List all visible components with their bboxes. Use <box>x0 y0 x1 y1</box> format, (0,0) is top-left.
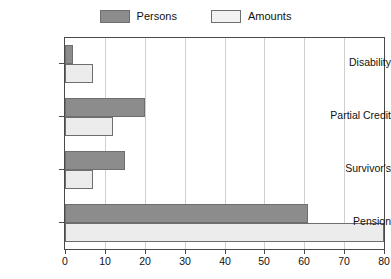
x-axis-label-60: 60 <box>298 256 310 267</box>
bar-persons-partial-credit[interactable] <box>65 98 145 117</box>
bar-chart: Persons Amounts DisabilityPartial Credit… <box>0 0 391 279</box>
x-axis-label-10: 10 <box>99 256 111 267</box>
chart-legend: Persons Amounts <box>0 10 391 23</box>
x-axis-label-30: 30 <box>179 256 191 267</box>
legend-label-amounts: Amounts <box>248 11 291 22</box>
legend-item-amounts[interactable]: Amounts <box>211 10 291 23</box>
x-axis-tick <box>225 250 226 254</box>
bar-persons-pension[interactable] <box>65 204 308 223</box>
x-axis-label-40: 40 <box>219 256 231 267</box>
x-axis-tick <box>105 250 106 254</box>
bar-persons-survivor-s[interactable] <box>65 151 125 170</box>
x-axis-tick <box>344 250 345 254</box>
y-axis-label-disability: Disability <box>329 57 391 68</box>
y-axis-tick <box>59 222 64 223</box>
x-axis-tick <box>65 250 66 254</box>
bar-amounts-survivor-s[interactable] <box>65 170 93 189</box>
x-axis-tick <box>384 250 385 254</box>
legend-swatch-persons <box>100 10 130 23</box>
bar-amounts-partial-credit[interactable] <box>65 117 113 136</box>
y-axis-label-survivor-s: Survivor's <box>329 163 391 174</box>
y-axis-label-partial-credit: Partial Credit <box>329 110 391 121</box>
x-axis-tick <box>264 250 265 254</box>
legend-item-persons[interactable]: Persons <box>100 10 177 23</box>
x-axis-label-70: 70 <box>338 256 350 267</box>
x-axis-tick <box>304 250 305 254</box>
y-axis-label-pension: Pension <box>329 216 391 227</box>
x-axis-label-50: 50 <box>258 256 270 267</box>
bar-persons-disability[interactable] <box>65 45 73 64</box>
legend-label-persons: Persons <box>137 11 177 22</box>
bar-amounts-disability[interactable] <box>65 64 93 83</box>
x-axis-label-0: 0 <box>62 256 68 267</box>
legend-swatch-amounts <box>211 10 241 23</box>
y-axis-tick <box>59 63 64 64</box>
x-axis-label-80: 80 <box>378 256 390 267</box>
x-axis-tick <box>185 250 186 254</box>
x-axis-label-20: 20 <box>139 256 151 267</box>
y-axis-tick <box>59 116 64 117</box>
x-axis-tick <box>145 250 146 254</box>
y-axis-tick <box>59 169 64 170</box>
